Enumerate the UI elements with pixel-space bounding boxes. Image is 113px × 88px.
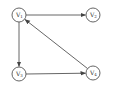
node-v4: V4 — [86, 66, 100, 80]
graph-svg: V1 V2 V3 V4 — [0, 0, 113, 88]
node-v2: V2 — [86, 8, 100, 22]
edge-v4-v1 — [25, 20, 88, 69]
graph-canvas: V1 V2 V3 V4 — [0, 0, 113, 88]
edge-v3-v4 — [26, 73, 86, 74]
node-v1: V1 — [12, 8, 26, 22]
node-v3: V3 — [12, 67, 26, 81]
